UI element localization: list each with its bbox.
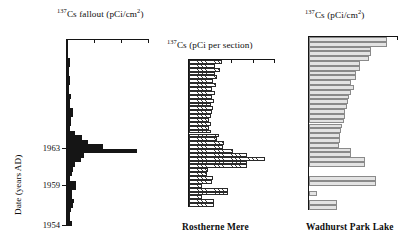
ytick-label-1954: 1954 bbox=[32, 221, 60, 230]
ytick-label-1959: 1959 bbox=[32, 181, 60, 190]
fallout-xtick-1 bbox=[94, 39, 95, 43]
bar-segment bbox=[189, 203, 214, 207]
panel-fallout-title: 137Cs fallout (pCi/cm2) bbox=[57, 10, 144, 19]
bar-segment bbox=[309, 205, 337, 210]
isotope-mass-number: 137 bbox=[57, 7, 67, 14]
fallout-ytick-1959 bbox=[62, 185, 66, 186]
panel-rostherne-caption: Rostherne Mere bbox=[182, 222, 249, 232]
cs137-figure: 137Cs fallout (pCi/cm2) 1963 1959 1954 D… bbox=[0, 0, 412, 244]
fallout-ytick-1954 bbox=[62, 225, 66, 226]
panel-wadhurst-title: 137Cs (pCi/cm2) bbox=[305, 11, 364, 20]
panel-wadhurst-title-tail: ) bbox=[361, 10, 364, 20]
fallout-ytick-1963 bbox=[62, 148, 66, 149]
panel-rostherne-title: 137Cs (pCi per section) bbox=[167, 41, 253, 50]
panel-fallout-title-tail: ) bbox=[140, 9, 143, 19]
fallout-xtick-2 bbox=[121, 39, 122, 43]
rostherne-xtick-4 bbox=[274, 59, 275, 63]
wadhurst-xtick-2 bbox=[397, 36, 398, 40]
fallout-x-axis bbox=[66, 39, 148, 40]
isotope-mass-number: 137 bbox=[305, 8, 315, 15]
bar-segment bbox=[309, 162, 365, 167]
fallout-xtick-3 bbox=[148, 39, 149, 43]
rostherne-xtick-3 bbox=[253, 59, 254, 63]
bar-segment bbox=[309, 191, 317, 196]
panel-wadhurst-title-text: Cs (pCi/cm bbox=[315, 10, 358, 20]
bar-segment bbox=[309, 181, 376, 186]
panel-wadhurst-caption: Wadhurst Park Lake bbox=[306, 222, 394, 232]
panel-rostherne-title-text: Cs (pCi per section) bbox=[177, 40, 253, 50]
ytick-label-1963: 1963 bbox=[32, 144, 60, 153]
bar-segment bbox=[67, 221, 72, 226]
y-axis-label: Date (years AD) bbox=[14, 155, 23, 215]
isotope-mass-number: 137 bbox=[167, 38, 177, 45]
panel-fallout-title-text: Cs fallout (pCi/cm bbox=[67, 9, 137, 19]
rostherne-xtick-2 bbox=[231, 59, 232, 63]
